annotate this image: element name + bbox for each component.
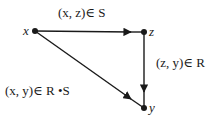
edge-z-y-label: (z, y)∈ R: [156, 56, 205, 69]
node-z-label: z: [149, 25, 154, 38]
node-x-label: x: [23, 24, 29, 37]
node-y-label: y: [149, 101, 155, 114]
node-z-dot: [141, 29, 147, 35]
edge-x-z: [35, 31, 131, 32]
node-x-dot: [32, 28, 38, 34]
edge-x-z-label: (x, z)∈ S: [58, 6, 106, 19]
edge-x-y-label: (x, y)∈ R •S: [5, 84, 70, 97]
relation-composition-diagram: x z y (x, z)∈ S (z, y)∈ R (x, y)∈ R •S: [0, 0, 219, 115]
node-y-dot: [141, 105, 147, 111]
